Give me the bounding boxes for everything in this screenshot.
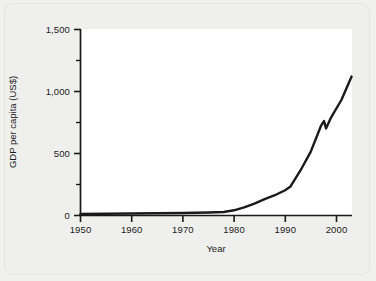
y-tick-label-500: 500 [38, 148, 70, 159]
data-series-group [81, 76, 352, 214]
axis-lines [81, 29, 353, 216]
x-axis-title: Year [206, 243, 225, 254]
y-tick-label-0: 0 [38, 210, 70, 221]
gdp-per-capita-line-chart [0, 0, 376, 281]
x-tick-label-1970: 1970 [172, 224, 194, 235]
figure-frame: 1,500 1,000 500 0 1950 1960 1970 1980 19… [0, 0, 376, 281]
gdp-per-capita-line [81, 76, 352, 214]
x-axis-major-ticks [81, 216, 337, 223]
y-axis-title: GDP per capita (US$) [7, 76, 18, 168]
x-tick-label-1960: 1960 [121, 224, 143, 235]
y-tick-label-1000: 1,000 [38, 86, 70, 97]
x-tick-label-2000: 2000 [326, 224, 348, 235]
x-tick-label-1950: 1950 [70, 224, 92, 235]
x-tick-label-1980: 1980 [223, 224, 245, 235]
x-tick-label-1990: 1990 [275, 224, 297, 235]
y-tick-label-1500: 1,500 [38, 24, 70, 35]
